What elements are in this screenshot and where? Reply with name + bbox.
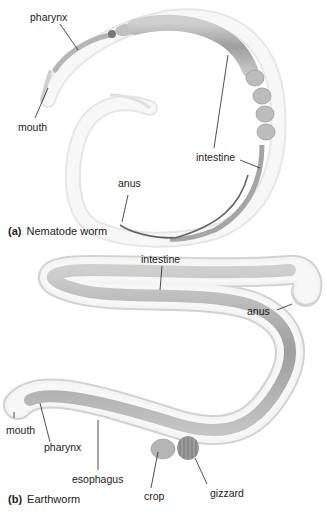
label-earthworm-pharynx: pharynx (44, 442, 81, 453)
earthworm-drawing (18, 270, 307, 460)
label-nematode-pharynx: pharynx (30, 12, 67, 23)
label-earthworm-intestine: intestine (141, 254, 180, 265)
label-nematode-anus: anus (118, 178, 141, 189)
label-earthworm-crop: crop (144, 491, 164, 502)
caption-letter: (b) (8, 493, 22, 505)
caption-letter: (a) (8, 225, 21, 237)
label-nematode-mouth: mouth (18, 122, 47, 133)
caption-title: Earthworm (27, 493, 80, 505)
label-nematode-intestine: intestine (196, 152, 235, 163)
label-earthworm-esophagus: esophagus (72, 474, 123, 485)
caption-title: Nematode worm (26, 225, 107, 237)
label-earthworm-anus: anus (247, 306, 270, 317)
caption-nematode: (a)Nematode worm (8, 226, 107, 237)
label-earthworm-gizzard: gizzard (210, 488, 244, 499)
label-earthworm-mouth: mouth (6, 425, 35, 436)
caption-earthworm: (b)Earthworm (8, 494, 80, 505)
